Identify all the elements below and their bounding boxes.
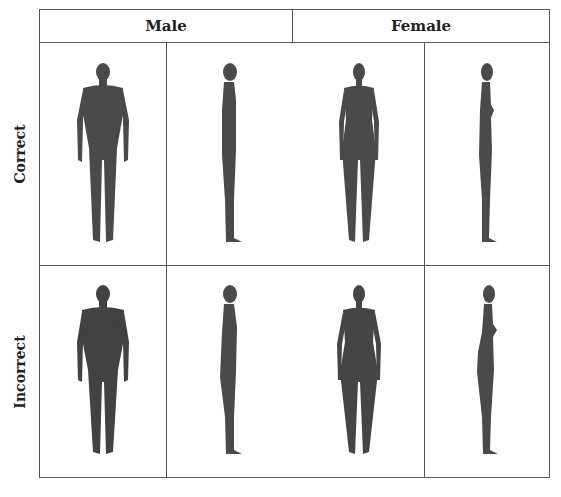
female-side-figure	[467, 60, 507, 250]
row-label-text: Incorrect	[12, 335, 28, 408]
cell-incorrect-female-side	[425, 266, 549, 477]
figure-table: Male Female	[39, 9, 550, 478]
cell-correct-female-front	[294, 44, 424, 265]
female-side-figure	[467, 282, 507, 462]
male-side-figure	[210, 282, 250, 462]
cell-correct-male-side	[167, 44, 293, 265]
header-male: Male	[40, 10, 293, 43]
header-female: Female	[293, 10, 549, 43]
male-front-figure	[73, 60, 133, 250]
male-front-figure	[73, 282, 133, 462]
row-label-text: Correct	[12, 124, 28, 183]
cell-correct-female-side	[425, 44, 549, 265]
cell-correct-male-front	[40, 44, 166, 265]
cell-incorrect-male-front	[40, 266, 166, 477]
male-side-figure	[210, 60, 250, 250]
female-front-figure	[332, 282, 386, 462]
female-front-figure	[334, 60, 384, 250]
row-label-correct: Correct	[0, 43, 39, 264]
row-label-incorrect: Incorrect	[0, 265, 39, 478]
cell-incorrect-male-side	[167, 266, 293, 477]
cell-incorrect-female-front	[294, 266, 424, 477]
